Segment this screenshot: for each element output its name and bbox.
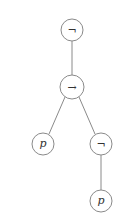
node-bottom-p: p [90,190,112,212]
node-root-negation: ¬ [61,19,83,41]
edge-implication-to-right-negation [79,97,95,134]
node-label: ¬ [67,24,76,37]
node-label: p [39,137,46,150]
node-label: ¬ [96,138,105,151]
node-label: → [67,81,76,94]
edge-implication-to-left-p [49,97,65,134]
node-label: p [97,194,104,207]
syntax-tree-diagram: ¬ → p ¬ p [0,0,134,223]
node-left-p: p [32,133,54,155]
node-implication: → [60,75,84,99]
edges [49,41,101,190]
node-right-negation: ¬ [90,133,112,155]
